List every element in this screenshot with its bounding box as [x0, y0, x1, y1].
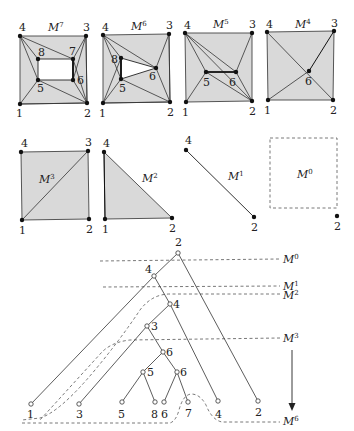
vertex-label: 3	[331, 17, 338, 30]
tree-leaf-label: 6	[161, 408, 168, 421]
vertex-label: 5	[37, 82, 44, 95]
tree-leaf	[256, 399, 260, 403]
level-line-m2	[22, 294, 280, 420]
mesh-title-m1: M1	[227, 170, 244, 183]
level-line-m0	[100, 259, 280, 261]
vertex-label: 1	[16, 107, 23, 120]
tree-leaf	[153, 400, 157, 404]
vertex-label: 2	[167, 106, 174, 119]
level-label-m6: M6	[282, 415, 299, 428]
tree-node-label: 4	[145, 263, 152, 276]
tree-node	[141, 370, 145, 374]
tree-leaf-label: 5	[118, 408, 125, 421]
vertex-label: 2	[84, 107, 91, 120]
tree-node	[176, 251, 180, 255]
mesh-title-m4: M4	[294, 18, 311, 31]
mesh-m1: 4 2 M1	[184, 134, 258, 234]
vertex-label: 2	[86, 223, 93, 236]
mesh-m4: 4 3 1 2 6 M4	[264, 17, 338, 117]
tree-leaf	[186, 400, 190, 404]
vertex-label: 5	[203, 76, 210, 89]
level-label-m3: M3	[282, 332, 299, 345]
vertex-label: 2	[249, 105, 256, 118]
vertex-label: 3	[83, 21, 90, 34]
tree-leaf-label: 2	[255, 406, 262, 419]
vertex-label: 4	[102, 21, 109, 34]
level-label-m0: M0	[282, 253, 299, 266]
tree-node-label: 4	[173, 298, 180, 311]
vertex-label: 1	[99, 107, 106, 120]
tree-leaf-label: 3	[76, 408, 83, 421]
vertex-label: 4	[103, 137, 110, 150]
tree-leaf	[162, 400, 166, 404]
tree-node-label: 2	[175, 236, 182, 249]
mesh-m3: 4 3 1 2 M3	[19, 136, 93, 237]
tree-leaf-label: 7	[185, 407, 192, 420]
vertex-label: 6	[77, 74, 84, 87]
vertex-label: 7	[69, 45, 76, 58]
tree-node	[175, 370, 179, 374]
tree-node	[161, 350, 165, 354]
vertex-label: 8	[111, 53, 118, 66]
tree-node	[152, 274, 156, 278]
tree-node-label: 5	[147, 366, 154, 379]
tree-node-label: 6	[180, 366, 187, 379]
mesh-title-m6: M6	[130, 20, 147, 33]
level-label-m2: M2	[282, 289, 299, 302]
vertex-label: 2	[169, 222, 176, 235]
vertex-label: 1	[19, 224, 26, 237]
vertex-label: 6	[229, 76, 236, 89]
vertex-label: 6	[149, 70, 156, 83]
vertex-label: 3	[249, 18, 256, 31]
vertex-label: 2	[330, 104, 337, 117]
tree-leaf-label: 1	[27, 408, 34, 421]
mesh-m0: 2 M0	[270, 138, 341, 233]
tree-leaf	[216, 399, 220, 403]
vertex-label: 3	[166, 19, 173, 32]
arrow-down-icon	[289, 403, 296, 411]
tree-leaf	[120, 400, 124, 404]
tree-node	[145, 324, 149, 328]
tree-leaf	[77, 402, 81, 406]
vertex-label: 8	[38, 46, 45, 59]
mesh-title-m7: M7	[47, 21, 64, 34]
mesh-m7: 4 3 1 2 8 7 5 6 M7	[16, 21, 91, 120]
vertex-label: 1	[102, 223, 109, 236]
mesh-m2: 4 1 2 M2	[102, 137, 176, 236]
vertex-label: 1	[264, 104, 271, 117]
vertex-hierarchy-tree: 2 4 4 3 6 5 6 1 3 5 8 6 7 4 2 M0 M1 M2 M…	[22, 236, 299, 428]
vertex-label: 3	[85, 136, 92, 149]
vertex-label: 6	[305, 75, 312, 88]
vertex-label: 4	[184, 19, 191, 32]
tree-leaf-label: 8	[151, 408, 158, 421]
tree-leaf	[29, 402, 33, 406]
vertex-label: 4	[21, 137, 28, 150]
mesh-m5: 4 3 1 2 5 6 M5	[182, 18, 256, 119]
tree-node	[168, 302, 172, 306]
progressive-mesh-diagram: 4 3 1 2 8 7 5 6 M7 4 3 1 2 8 6 5 M6	[0, 0, 354, 431]
mesh-title-m5: M5	[212, 18, 229, 31]
tree-node-label: 6	[166, 346, 173, 359]
vertex-label: 4	[266, 18, 273, 31]
mesh-m6: 4 3 1 2 8 6 5 M6	[99, 19, 174, 120]
mesh-title-m0: M0	[296, 168, 313, 181]
vertex-label: 2	[334, 220, 341, 233]
vertex-label: 4	[185, 134, 192, 147]
level-line-m1	[103, 286, 280, 287]
tree-leaf-label: 4	[215, 408, 222, 421]
vertex-label: 4	[19, 21, 26, 34]
mesh-title-m2: M2	[141, 172, 158, 185]
vertex-label: 5	[119, 82, 126, 95]
vertex-label: 2	[251, 221, 258, 234]
tree-node-label: 3	[151, 320, 158, 333]
vertex-label: 1	[182, 106, 189, 119]
